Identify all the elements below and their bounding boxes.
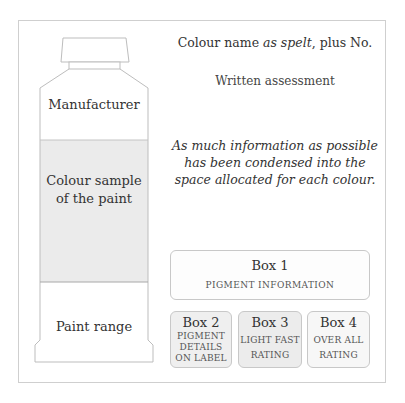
box-3-title: Box 3 [239, 315, 301, 331]
colour-name-suffix: , plus No. [312, 35, 373, 50]
colour-sample-line2: of the paint [40, 190, 148, 208]
box-3-line-2: RATING [239, 350, 301, 361]
manufacturer-label: Manufacturer [40, 96, 148, 114]
colour-name-heading: Colour name as spelt, plus No. [160, 35, 390, 50]
box-1-title: Box 1 [171, 258, 369, 274]
condensed-info-note: As much information as possible has been… [165, 137, 385, 188]
paint-range-label: Paint range [40, 318, 148, 336]
box-1-subtitle: PIGMENT INFORMATION [171, 280, 369, 291]
box-2-line-1: PIGMENT [171, 331, 231, 342]
colour-sample-label: Colour sample of the paint [40, 172, 148, 208]
colour-name-prefix: Colour name [178, 35, 263, 50]
box-3-lightfast-rating: Box 3 LIGHT FAST RATING [238, 311, 302, 368]
written-assessment-label: Written assessment [165, 74, 385, 88]
box-4-line-2: RATING [308, 350, 369, 361]
box-3-line-1: LIGHT FAST [239, 335, 301, 346]
box-1-pigment-information: Box 1 PIGMENT INFORMATION [170, 250, 370, 300]
box-4-overall-rating: Box 4 OVER ALL RATING [307, 311, 370, 368]
box-4-title: Box 4 [308, 315, 369, 331]
box-2-title: Box 2 [171, 315, 231, 331]
colour-sample-line1: Colour sample [40, 172, 148, 190]
box-4-line-1: OVER ALL [308, 335, 369, 346]
colour-name-italic: as spelt [263, 35, 312, 50]
box-2-pigment-details: Box 2 PIGMENT DETAILS ON LABEL [170, 311, 232, 368]
box-2-line-3: ON LABEL [171, 353, 231, 364]
box-2-line-2: DETAILS [171, 342, 231, 353]
